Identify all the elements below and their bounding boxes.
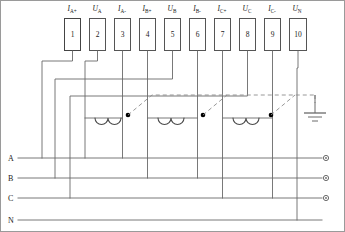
wire-terminal-5-to-ct-b-left — [55, 51, 173, 178]
dashed-ground-run-ct-c — [271, 95, 295, 115]
dashed-ground-run-ct-b — [203, 95, 227, 115]
wire-terminal-8-to-ct-c-left — [70, 51, 248, 198]
ground-icon — [304, 95, 326, 121]
line-terminal-a-core — [325, 157, 327, 159]
wire-terminal-10-to-phase-n — [297, 51, 298, 220]
wire-terminal-1-to-phase-a — [42, 51, 73, 158]
ct-a-coil — [95, 118, 121, 125]
ct-b-coil — [158, 118, 184, 125]
dashed-ground-run-ct-a — [128, 95, 315, 115]
ct-c-coil — [233, 118, 259, 125]
wire-terminal-2-to-ct-a-left — [85, 51, 98, 158]
line-terminal-b-core — [325, 177, 327, 179]
line-terminal-c-core — [325, 197, 327, 199]
wiring-diagram: IA+ UA IA- IB+ UB IB- IC+ UC IC- UN 1 2 … — [0, 0, 345, 232]
wire-layer — [0, 0, 345, 232]
